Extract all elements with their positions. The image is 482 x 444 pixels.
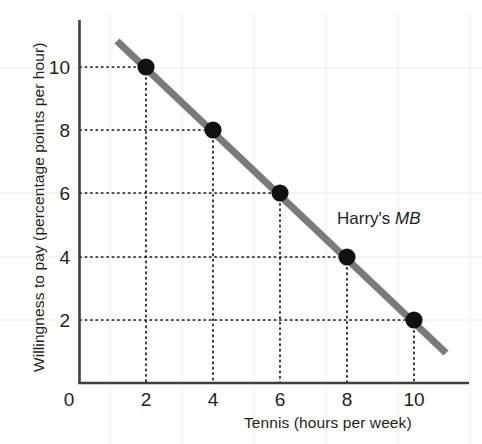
- x-tick-label-6: 6: [275, 390, 286, 409]
- curve-label-harrys-mb: Harry's MB: [337, 209, 421, 229]
- x-tick-label-10: 10: [403, 390, 424, 409]
- faint-page-grid: [0, 14, 482, 444]
- x-tick-label-2: 2: [141, 390, 152, 409]
- y-tick-label-6: 6: [59, 184, 70, 203]
- y-tick-label-2: 2: [59, 311, 70, 330]
- x-tick-label-4: 4: [208, 390, 219, 409]
- data-point-2-10: [137, 58, 154, 75]
- y-tick-label-4: 4: [59, 248, 70, 267]
- x-tick-label-0: 0: [64, 390, 75, 409]
- data-point-4-8: [204, 121, 221, 138]
- curve-label-symbol: MB: [395, 209, 421, 228]
- data-point-8-4: [338, 248, 355, 265]
- y-tick-label-8: 8: [59, 121, 70, 140]
- data-point-6-6: [271, 184, 288, 201]
- x-axis-title: Tennis (hours per week): [244, 414, 412, 432]
- y-axis-title: Willingness to pay (percentage points pe…: [30, 42, 48, 372]
- chart-figure: 10 8 6 4 2 0 2 4 6 8 10 Harry's MB Willi…: [0, 0, 482, 444]
- curve-label-name: Harry's: [337, 209, 390, 228]
- y-tick-label-10: 10: [49, 58, 70, 77]
- x-tick-label-8: 8: [342, 390, 353, 409]
- data-point-10-2: [405, 311, 422, 328]
